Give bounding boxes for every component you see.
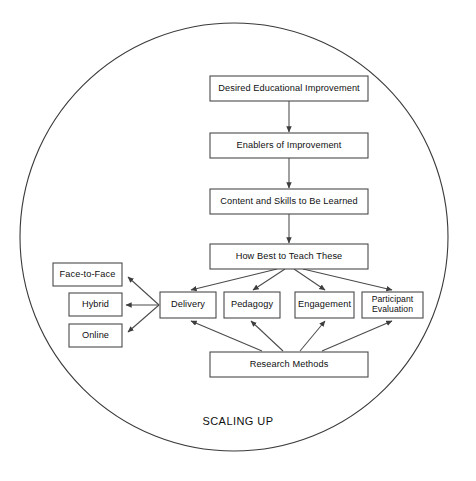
node-pedagogy[interactable]: Pedagogy (224, 292, 280, 318)
node-enablers-of-improvement[interactable]: Enablers of Improvement (210, 133, 368, 158)
node-label-research-methods: Research Methods (250, 359, 329, 369)
edge-delivery-to-online (128, 305, 159, 332)
edge-howbest-to-participant (303, 269, 392, 290)
edge-research-to-pedagogy (251, 321, 283, 351)
edge-research-to-engagement (300, 321, 325, 351)
scaling-up-caption: SCALING UP (202, 415, 273, 427)
node-label-content-and-skills-to-be-learned: Content and Skills to Be Learned (220, 196, 358, 206)
node-label-hybrid: Hybrid (82, 299, 109, 309)
node-content-and-skills-to-be-learned[interactable]: Content and Skills to Be Learned (210, 189, 368, 214)
node-label-participant-evaluation: Participant (372, 294, 414, 304)
node-how-best-to-teach-these[interactable]: How Best to Teach These (210, 244, 368, 269)
edge-howbest-to-pedagogy (253, 269, 285, 290)
node-label-delivery: Delivery (171, 299, 205, 309)
node-label-participant-evaluation: Evaluation (372, 304, 413, 314)
edge-delivery-to-face-to-face (128, 277, 159, 305)
node-engagement[interactable]: Engagement (295, 292, 354, 318)
node-delivery[interactable]: Delivery (160, 292, 216, 318)
node-desired-educational-improvement[interactable]: Desired Educational Improvement (210, 76, 368, 101)
node-label-how-best-to-teach-these: How Best to Teach These (236, 251, 343, 261)
edge-howbest-to-engagement (294, 269, 325, 290)
node-label-engagement: Engagement (298, 299, 351, 309)
node-label-online: Online (82, 330, 109, 340)
node-online[interactable]: Online (69, 324, 122, 347)
node-face-to-face[interactable]: Face-to-Face (53, 263, 122, 286)
node-hybrid[interactable]: Hybrid (69, 293, 122, 316)
node-research-methods[interactable]: Research Methods (210, 352, 368, 377)
scaling-up-framework-diagram: Desired Educational ImprovementEnablers … (0, 0, 476, 481)
edge-research-to-participant (322, 321, 392, 351)
edge-research-to-delivery (191, 321, 262, 351)
edge-howbest-to-delivery (191, 269, 277, 290)
node-label-desired-educational-improvement: Desired Educational Improvement (218, 83, 360, 93)
node-participant-evaluation[interactable]: ParticipantEvaluation (362, 292, 423, 318)
diagram-canvas: Desired Educational ImprovementEnablers … (0, 0, 476, 481)
node-label-face-to-face: Face-to-Face (60, 269, 116, 279)
node-label-enablers-of-improvement: Enablers of Improvement (237, 140, 342, 150)
node-label-pedagogy: Pedagogy (231, 299, 273, 309)
